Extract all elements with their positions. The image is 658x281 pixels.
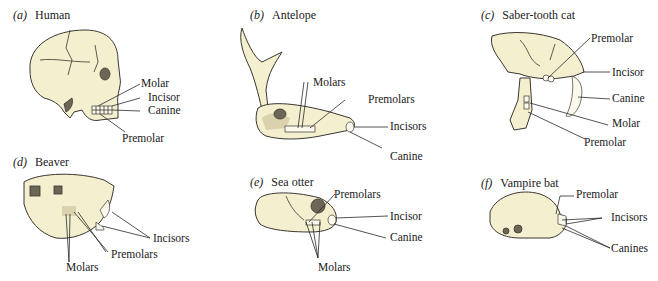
label-premolar: Premolar [576, 189, 618, 201]
label-incisors: Incisors [611, 212, 647, 224]
vampire-bat-skull-illustration [0, 0, 658, 281]
label-canines: Canines [611, 243, 648, 255]
